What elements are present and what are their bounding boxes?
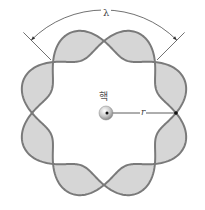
node-dot bbox=[174, 111, 178, 115]
nucleus-label: 핵 bbox=[99, 92, 108, 102]
wavelength-tick bbox=[157, 32, 185, 60]
nucleus-center-dot bbox=[106, 112, 109, 115]
wavelength-tick bbox=[23, 32, 51, 60]
wavelength-label: λ bbox=[101, 8, 111, 18]
standing-wave-diagram bbox=[0, 0, 205, 210]
radius-label: r bbox=[140, 108, 146, 117]
